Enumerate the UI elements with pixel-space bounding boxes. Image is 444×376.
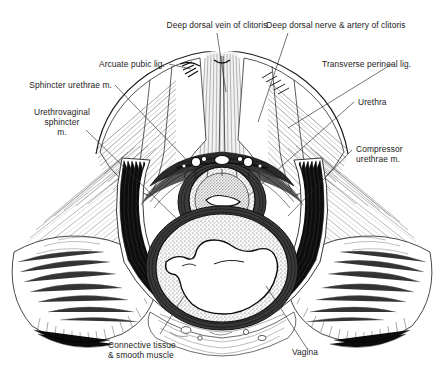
deep-dorsal-nerve-vessel-left: [191, 157, 200, 166]
label-arcuate-pubic-lig: Arcuate pubic lig.: [99, 59, 165, 69]
label-urethrovaginal-sphincter-line3: m.: [57, 127, 67, 137]
label-compressor-urethrae-line1: Compressor: [356, 144, 403, 154]
deep-dorsal-artery-vessel: [237, 156, 242, 161]
anatomical-figure: Deep dorsal vein of clitoris Deep dorsal…: [0, 0, 444, 376]
deep-dorsal-vein-vessel: [215, 156, 230, 165]
label-deep-dorsal-nerve-artery: Deep dorsal nerve & artery of clitoris: [266, 20, 405, 30]
label-vagina: Vagina: [292, 347, 318, 357]
label-compressor-urethrae-line2: urethrae m.: [356, 154, 400, 164]
label-transverse-perineal-lig: Transverse perineal lig.: [322, 59, 411, 69]
label-urethrovaginal-sphincter-line1: Urethrovaginal: [34, 107, 90, 117]
label-sphincter-urethrae: Sphincter urethrae m.: [29, 80, 112, 90]
label-deep-dorsal-vein: Deep dorsal vein of clitoris: [166, 20, 267, 30]
label-urethra: Urethra: [358, 97, 387, 107]
label-urethrovaginal-sphincter-line2: sphincter: [45, 117, 80, 127]
deep-dorsal-nerve-vessel: [243, 157, 252, 166]
label-connective-tissue-line1: Connective tissue: [108, 340, 176, 350]
label-connective-tissue-line2: & smooth muscle: [108, 350, 174, 360]
vagina-cross-section: [146, 206, 298, 330]
deep-dorsal-artery-vessel-left: [201, 156, 206, 161]
